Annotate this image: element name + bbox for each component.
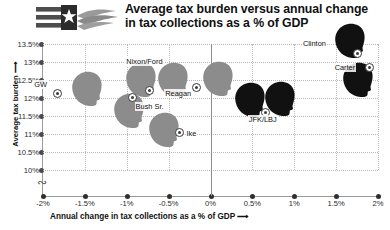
president-silhouette xyxy=(200,61,234,97)
x-tick-label: 0.5% xyxy=(232,199,272,208)
x-tick-label: 2% xyxy=(358,199,390,208)
data-point-label: Nixon/Ford xyxy=(125,57,163,66)
plot-area: GWNixon/FordBush Sr.ReaganIkeClintonCart… xyxy=(43,44,378,170)
flag-hand-logo xyxy=(36,4,122,34)
y-tick-label: 10.5% xyxy=(3,148,39,157)
data-point-marker[interactable] xyxy=(128,93,137,102)
x-tick-label: -1% xyxy=(107,199,147,208)
data-point-label: JFK/LBJ xyxy=(248,115,278,124)
x-tick-label: -0.5% xyxy=(149,199,189,208)
y-axis-tick-labels: 13.5%13%12.5%12%11.5%11%10.5%10% xyxy=(0,0,39,230)
data-point-label: Carter xyxy=(334,63,357,72)
data-point-label: Ike xyxy=(186,129,198,138)
axis-break-symbol: ∾ xyxy=(37,176,47,189)
y-tick-label: 10% xyxy=(3,166,39,175)
x-tick-label: 1.5% xyxy=(316,199,356,208)
x-tick-label: 1% xyxy=(274,199,314,208)
data-point-marker[interactable] xyxy=(192,83,201,92)
data-point-marker[interactable] xyxy=(175,128,184,137)
data-point-label: GW xyxy=(33,80,48,89)
data-point-label: Bush Sr. xyxy=(135,102,165,111)
data-point-label: Clinton xyxy=(302,39,327,48)
y-tick-label: 13% xyxy=(3,58,39,67)
x-tick-label: -2% xyxy=(23,199,63,208)
x-tick-label: -1.5% xyxy=(65,199,105,208)
gridline-vertical xyxy=(378,44,379,170)
y-axis-title: Average tax burden ⟶ xyxy=(11,45,20,165)
x-axis-title: Annual change in tax collections as a % … xyxy=(50,211,248,221)
y-tick-label: 11% xyxy=(3,130,39,139)
y-tick-label: 12% xyxy=(3,94,39,103)
data-point-marker[interactable] xyxy=(353,49,362,58)
data-point-marker[interactable] xyxy=(145,86,154,95)
data-point-marker[interactable] xyxy=(53,89,62,98)
y-tick-label: 11.5% xyxy=(3,112,39,121)
chart-title-line1: Average tax burden versus annual change xyxy=(125,3,387,17)
y-tick-label: 13.5% xyxy=(3,40,39,49)
president-silhouette xyxy=(69,71,103,107)
x-tick-label: 0% xyxy=(191,199,231,208)
chart-page: Average tax burden versus annual change … xyxy=(0,0,390,230)
data-point-label: Reagan xyxy=(164,89,192,98)
